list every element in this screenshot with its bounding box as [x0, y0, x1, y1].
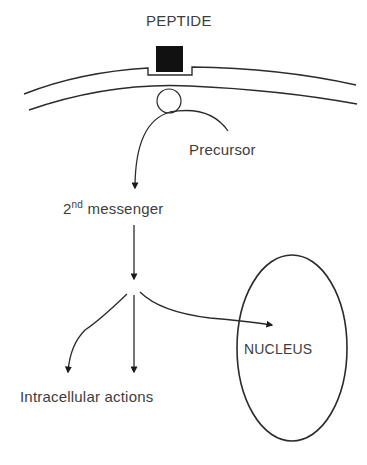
peptide-receptor-square [156, 46, 183, 72]
branch-left-arrow [68, 294, 127, 372]
vesicle-circle [157, 89, 181, 113]
intracellular-actions-label: Intracellular actions [20, 388, 153, 405]
second-messenger-ordinal: nd [72, 199, 84, 210]
branch-right-to-nucleus-arrow [140, 292, 272, 325]
second-messenger-number: 2 [63, 200, 72, 217]
precursor-label: Precursor [189, 141, 256, 158]
peptide-signaling-diagram: PEPTIDE Precursor 2nd messenger NUCLEUS … [0, 0, 367, 465]
nucleus-label: NUCLEUS [244, 341, 312, 357]
second-messenger-text: messenger [83, 200, 163, 217]
second-messenger-label: 2nd messenger [63, 200, 163, 217]
peptide-label: PEPTIDE [146, 12, 212, 29]
cell-membrane-outer [24, 67, 356, 94]
cell-membrane-inner [29, 86, 357, 111]
